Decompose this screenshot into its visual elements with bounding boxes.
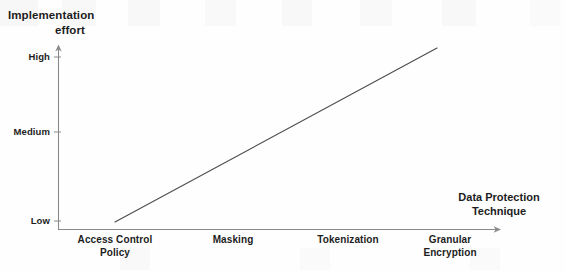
- x-tick-tok-line1: Tokenization: [317, 234, 379, 245]
- x-tick-acp-line1: Access Control: [78, 234, 153, 245]
- x-tick-label-access-control-policy: Access Control Policy: [63, 233, 167, 259]
- y-tick-label-high: High: [0, 51, 50, 62]
- x-tick-label-masking: Masking: [183, 233, 283, 246]
- x-tick-label-granular-encryption: Granular Encryption: [400, 233, 500, 259]
- data-series-line: [115, 48, 437, 222]
- y-axis-title: Implementation effort: [8, 8, 158, 38]
- y-axis-title-line1: Implementation: [8, 8, 158, 23]
- x-axis-title-line1: Data Protection: [437, 190, 561, 204]
- x-tick-msk-line1: Masking: [213, 234, 254, 245]
- y-tick-label-medium: Medium: [0, 126, 50, 137]
- x-tick-acp-line2: Policy: [100, 247, 130, 258]
- x-tick-gre-line2: Encryption: [423, 247, 476, 258]
- x-tick-gre-line1: Granular: [429, 234, 471, 245]
- y-axis-title-line2: effort: [8, 23, 158, 38]
- x-axis-title: Data Protection Technique: [437, 190, 561, 218]
- chart-canvas: Implementation effort Data Protection Te…: [0, 0, 566, 273]
- y-tick-label-low: Low: [0, 215, 50, 226]
- x-tick-label-tokenization: Tokenization: [296, 233, 400, 246]
- x-axis-title-line2: Technique: [437, 204, 561, 218]
